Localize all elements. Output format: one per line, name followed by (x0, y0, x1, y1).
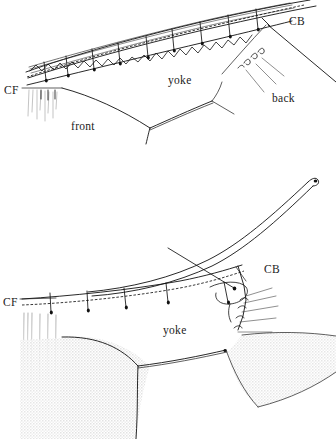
pin (92, 49, 96, 72)
label-cb-top: CB (289, 15, 305, 27)
label-back-top: back (272, 92, 295, 104)
yoke-back-join-top (212, 101, 234, 114)
label-yoke-top: yoke (168, 74, 192, 87)
cf-raw-edge-fringe-top (28, 90, 57, 121)
collar-band-inner-bottom (92, 186, 313, 296)
back-leader-lines-top (246, 58, 284, 92)
collar-band-outer-bottom (88, 182, 308, 292)
front-lower-edge-top (150, 101, 212, 128)
needle-diagonal-bottom (168, 248, 236, 291)
label-front-top: front (71, 120, 95, 132)
pin-group-top (44, 9, 260, 83)
collar-tip-dot-bottom (314, 179, 318, 182)
label-cf-bottom: CF (3, 296, 18, 308)
yoke-upper-edge-bottom (22, 265, 242, 299)
yoke-lower-center-seam-inner-bottom (138, 352, 227, 368)
yoke-back-join-2-top (212, 82, 222, 101)
pin (166, 283, 170, 304)
yoke-seam-line (27, 21, 292, 85)
pin (200, 22, 204, 45)
pin (87, 291, 90, 312)
yoke-top-outer-edge (26, 0, 310, 72)
yoke-top-inner-edge (28, 6, 316, 78)
cb-notch-bottom (236, 267, 246, 281)
label-cb-bottom: CB (264, 263, 280, 275)
back-panel-shaded-region (228, 333, 336, 407)
pin (118, 43, 122, 66)
cf-lower-shaded-block (20, 338, 62, 439)
front-lower-edge-inner-top (150, 103, 213, 130)
collar-band-tip-bottom (308, 178, 319, 186)
front-hem-curve-top (146, 128, 150, 144)
pin (124, 288, 128, 309)
illustration-page: CF CB yoke front back (0, 0, 336, 439)
pin-group-bottom (50, 282, 230, 314)
pin (228, 15, 232, 38)
yoke-lower-center-seam-bottom (138, 350, 226, 366)
label-cf-top: CF (4, 84, 19, 96)
label-yoke-bottom: yoke (163, 324, 187, 337)
pin (256, 9, 260, 32)
thread-tail-bottom (229, 304, 231, 322)
figure-bottom: CF CB yoke (3, 178, 336, 439)
back-panel-right-edge-top (268, 25, 336, 82)
figure-top: CF CB yoke front back (4, 0, 336, 144)
diagram-canvas: CF CB yoke front back (0, 0, 336, 439)
